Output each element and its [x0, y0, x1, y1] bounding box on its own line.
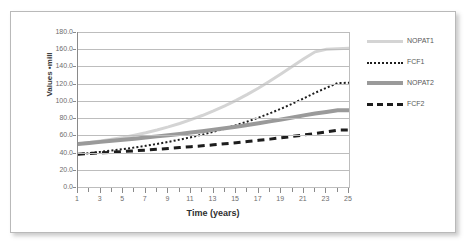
x-tick-mark [145, 188, 146, 193]
legend-item-fcf1[interactable]: FCF1 [363, 55, 451, 69]
x-tick-label: 23 [314, 194, 336, 203]
x-tick-label: 21 [292, 194, 314, 203]
x-tick-label: 13 [202, 194, 224, 203]
y-tick-label: 100.0 [39, 97, 73, 104]
x-tick-label: 9 [156, 194, 178, 203]
x-tick-mark [280, 188, 281, 193]
x-tick-mark [292, 188, 293, 192]
plot-area [77, 32, 350, 188]
solid-light-line-icon [367, 40, 403, 43]
x-tick-mark [325, 188, 326, 193]
gridline [78, 118, 350, 119]
y-tick-label: 40.0 [39, 149, 73, 156]
x-tick-label: 3 [89, 194, 111, 203]
y-tick-mark [73, 135, 76, 136]
y-tick-label: 180.0 [39, 28, 73, 35]
y-tick-mark [73, 49, 76, 50]
legend-item-nopat2[interactable]: NOPAT2 [363, 76, 451, 90]
x-tick-mark [269, 188, 270, 192]
legend-label: FCF1 [407, 55, 451, 68]
x-tick-mark [122, 188, 123, 193]
x-tick-label: 11 [179, 194, 201, 203]
chart-figure: Values ▪mill 180.0160.0140.0120.0100.080… [0, 0, 469, 249]
gridline [78, 153, 350, 154]
x-tick-label: 5 [111, 194, 133, 203]
y-tick-mark [73, 32, 76, 33]
x-axis-tick-labels: 135791113151719212325 [51, 194, 381, 206]
x-tick-mark [190, 188, 191, 193]
x-tick-mark [88, 188, 89, 192]
x-tick-mark [258, 188, 259, 193]
x-tick-label: 25 [337, 194, 359, 203]
y-tick-mark [73, 187, 76, 188]
gridline [78, 135, 350, 136]
series-line-nopat2 [78, 110, 349, 144]
y-axis-tick-labels: 180.0160.0140.0120.0100.080.060.040.020.… [33, 32, 73, 188]
y-tick-label: 80.0 [39, 114, 73, 121]
figure-frame: Values ▪mill 180.0160.0140.0120.0100.080… [10, 11, 456, 233]
x-tick-label: 19 [269, 194, 291, 203]
y-tick-mark [73, 170, 76, 171]
x-tick-mark [201, 188, 202, 192]
gridline [78, 84, 350, 85]
x-tick-mark [77, 188, 78, 193]
legend-label: NOPAT2 [407, 76, 451, 89]
legend-item-nopat1[interactable]: NOPAT1 [363, 34, 451, 48]
y-tick-label: 160.0 [39, 45, 73, 52]
y-tick-label: 20.0 [39, 166, 73, 173]
gridline [78, 170, 350, 171]
x-tick-label: 15 [224, 194, 246, 203]
x-tick-mark [224, 188, 225, 192]
x-tick-mark [167, 188, 168, 193]
x-tick-mark [337, 188, 338, 192]
x-tick-mark [348, 188, 349, 193]
y-tick-label: 140.0 [39, 62, 73, 69]
x-tick-label: 7 [134, 194, 156, 203]
gridline [78, 66, 350, 67]
series-lines [78, 32, 350, 187]
x-tick-label: 17 [247, 194, 269, 203]
x-tick-mark [179, 188, 180, 192]
solid-mid-line-icon [367, 81, 403, 85]
gridline [78, 101, 350, 102]
plot-right-border [349, 32, 350, 187]
y-tick-mark [73, 84, 76, 85]
dashed-line-icon [367, 103, 403, 106]
y-tick-label: 0.0 [39, 183, 73, 190]
x-tick-mark [213, 188, 214, 193]
legend-item-fcf2[interactable]: FCF2 [363, 97, 451, 111]
x-tick-mark [111, 188, 112, 192]
x-tick-mark [156, 188, 157, 192]
x-tick-mark [246, 188, 247, 192]
y-tick-label: 60.0 [39, 131, 73, 138]
y-tick-mark [73, 153, 76, 154]
legend-label: NOPAT1 [407, 34, 451, 47]
x-tick-mark [100, 188, 101, 193]
y-tick-mark [73, 118, 76, 119]
y-tick-label: 120.0 [39, 80, 73, 87]
x-tick-mark [303, 188, 304, 193]
plot-top-border [78, 32, 350, 33]
y-tick-mark [73, 66, 76, 67]
x-axis-title: Time (years) [77, 208, 349, 218]
x-tick-mark [133, 188, 134, 192]
x-tick-mark [314, 188, 315, 192]
gridline [78, 49, 350, 50]
y-tick-mark [73, 101, 76, 102]
x-tick-label: 1 [66, 194, 88, 203]
chart-legend: NOPAT1FCF1NOPAT2FCF2 [363, 34, 451, 120]
x-tick-mark [235, 188, 236, 193]
legend-label: FCF2 [407, 97, 451, 110]
dotted-line-icon [367, 62, 403, 64]
